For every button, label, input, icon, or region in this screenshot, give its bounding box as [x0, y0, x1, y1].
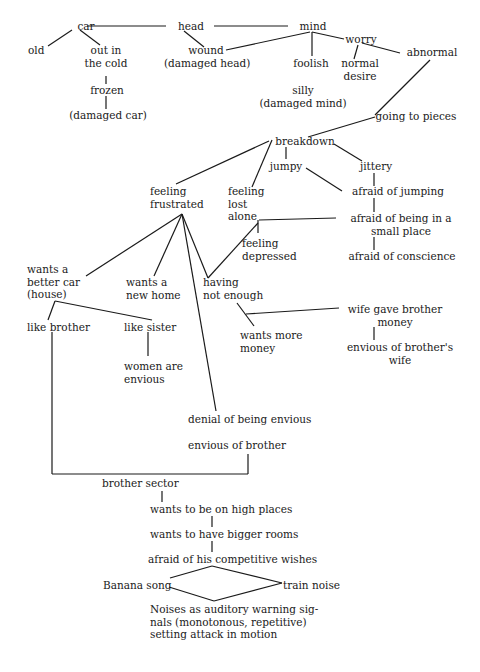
- node-worry: worry: [342, 33, 380, 46]
- node-women-are-envious: women are envious: [124, 360, 188, 385]
- node-jumpy: jumpy: [266, 160, 306, 173]
- node-foolish: foolish: [286, 57, 336, 70]
- connector-line: [176, 141, 269, 184]
- node-train-noise: train noise: [283, 579, 353, 592]
- connector-line: [308, 117, 375, 137]
- connector-line: [48, 301, 55, 320]
- node-afraid-of-jumping: afraid of jumping: [342, 185, 454, 198]
- node-banana-song: Banana song: [103, 579, 175, 592]
- node-mind: mind: [290, 20, 336, 33]
- node-envious-of-brother: envious of brother: [188, 439, 298, 452]
- node-car: car: [66, 20, 106, 33]
- node-out-in-the-cold: out in the cold: [80, 44, 132, 69]
- node-noises-warning: Noises as auditory warning sig- nals (mo…: [150, 603, 340, 641]
- node-like-brother: like brother: [27, 321, 97, 334]
- node-breakdown: breakdown: [270, 135, 340, 148]
- node-wound: wound (damaged head): [164, 44, 248, 69]
- connector-line: [170, 566, 212, 578]
- node-wants-new-home: wants a new home: [126, 276, 186, 301]
- node-having-not-enough: having not enough: [203, 276, 273, 301]
- node-envious-of-brothers-wife: envious of brother's wife: [340, 341, 460, 366]
- connector-line: [182, 214, 208, 278]
- node-frozen: frozen: [84, 84, 130, 97]
- concept-diagram: carheadmindoldout in the coldwound (dama…: [0, 0, 480, 672]
- node-wants-better-car: wants a better car (house): [27, 263, 91, 301]
- node-feeling-frustrated: feeling frustrated: [150, 185, 212, 210]
- node-wife-gave-brother-money: wife gave brother money: [340, 303, 450, 328]
- node-like-sister: like sister: [124, 321, 184, 334]
- node-normal-desire: normal desire: [336, 57, 384, 82]
- node-afraid-of-conscience: afraid of conscience: [340, 250, 464, 263]
- connector-line: [246, 308, 339, 314]
- connector-line: [312, 32, 344, 39]
- node-denial-of-being-envious: denial of being envious: [188, 413, 328, 426]
- node-going-to-pieces: going to pieces: [366, 110, 466, 123]
- node-damaged-car: (damaged car): [66, 109, 150, 122]
- node-brother-sector: brother sector: [102, 477, 188, 490]
- node-abnormal: abnormal: [402, 46, 462, 59]
- node-jittery: jittery: [354, 160, 398, 173]
- node-afraid-competitive-wishes: afraid of his competitive wishes: [148, 553, 338, 566]
- node-old: old: [28, 44, 54, 57]
- node-feeling-lost-alone: feeling lost alone: [228, 185, 278, 223]
- node-wants-high-places: wants to be on high places: [150, 503, 310, 516]
- connector-line: [55, 301, 152, 320]
- node-wants-bigger-rooms: wants to have bigger rooms: [150, 528, 310, 541]
- connector-line: [169, 587, 214, 601]
- node-wants-more-money: wants more money: [240, 329, 306, 354]
- connector-line: [237, 303, 254, 326]
- node-afraid-small-place: afraid of being in a small place: [338, 212, 464, 237]
- connector-line: [214, 583, 282, 601]
- connector-line: [212, 566, 282, 583]
- node-feeling-depressed: feeling depressed: [242, 237, 304, 262]
- node-head: head: [168, 20, 214, 33]
- node-silly: silly (damaged mind): [258, 84, 348, 109]
- connector-line: [306, 168, 342, 191]
